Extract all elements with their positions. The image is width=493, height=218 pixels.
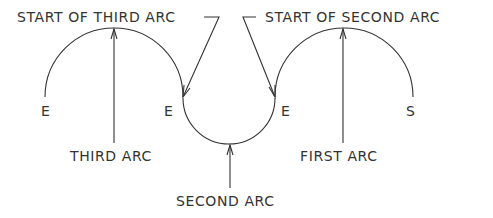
start-of-second-arc-label: START OF SECOND ARC — [265, 9, 440, 25]
arc-diagram: START OF THIRD ARC START OF SECOND ARC E… — [0, 0, 493, 218]
start-of-second-arc-leader-arrow — [243, 17, 275, 97]
end-point-mid-right-label: E — [281, 103, 290, 119]
start-point-label: S — [406, 103, 416, 119]
second-arc-label: SECOND ARC — [176, 193, 275, 209]
first-arc-leader-arrow — [340, 29, 346, 143]
end-point-left-label: E — [41, 103, 50, 119]
second-arc-leader-arrow — [227, 145, 233, 188]
third-arc-leader-arrow — [111, 29, 117, 143]
first-arc-curve — [275, 28, 413, 97]
first-arc-label: FIRST ARC — [300, 148, 378, 164]
start-of-third-arc-leader-arrow — [183, 17, 219, 97]
third-arc-label: THIRD ARC — [69, 148, 152, 164]
second-arc-curve — [183, 98, 275, 144]
start-of-third-arc-label: START OF THIRD ARC — [17, 9, 176, 25]
end-point-mid-left-label: E — [164, 103, 173, 119]
